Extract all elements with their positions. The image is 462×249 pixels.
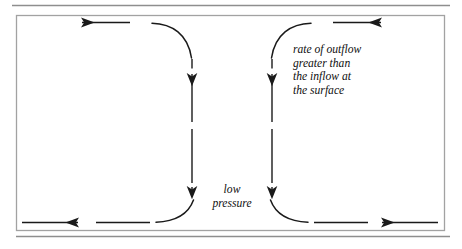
circulation-diagram — [0, 0, 462, 249]
outflow-annotation-line-1: rate of outflow — [293, 43, 361, 57]
low-pressure-annotation-line-1: low — [201, 183, 263, 197]
outflow-annotation-line-4: the surface — [293, 84, 361, 98]
top-left-curve — [152, 23, 192, 58]
low-pressure-annotation: low pressure — [201, 183, 263, 210]
left-ascent-column — [156, 59, 194, 222]
right-bottom-curve — [271, 200, 309, 222]
outflow-annotation-line-2: greater than — [293, 57, 361, 71]
figure-root: rate of outflow greater than the inflow … — [0, 0, 462, 249]
outflow-annotation-line-3: the inflow at — [293, 70, 361, 84]
outflow-annotation: rate of outflow greater than the inflow … — [293, 43, 361, 98]
left-bottom-curve — [156, 200, 194, 222]
low-pressure-annotation-line-2: pressure — [201, 197, 263, 211]
